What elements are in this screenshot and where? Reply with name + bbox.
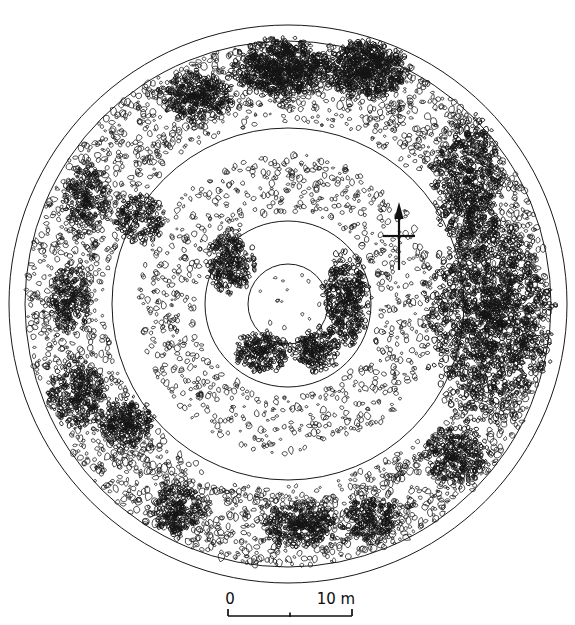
site-plan-figure: 0 10 m (0, 0, 575, 625)
stone-cluster-southwest-patch (96, 393, 156, 451)
scale-bar-group: 0 10 m (225, 590, 355, 617)
north-arrow-head-icon (394, 202, 403, 219)
stone-cluster-inner-south (234, 329, 296, 373)
stone-cluster-north-east (320, 38, 414, 102)
ring-central-circle (248, 264, 328, 344)
stone-cluster-inner-east (320, 249, 373, 348)
stone-zone-central-sparse (259, 274, 321, 330)
stone-cluster-west-lower (46, 356, 106, 430)
site-plan-drawing: 0 10 m (0, 0, 575, 625)
stone-cluster-inner-west (206, 227, 257, 296)
north-arrow-group (383, 202, 415, 270)
stone-zone-mid-band (137, 152, 439, 456)
scale-bar-left-label: 0 (225, 590, 235, 608)
feature-round-cairn-west (114, 192, 166, 246)
stone-cluster-northwest-arc (154, 68, 236, 124)
scale-bar-right-label: 10 m (317, 590, 355, 608)
stone-cluster-west-mid (47, 261, 94, 337)
stone-cluster-east-massive (421, 201, 557, 431)
stone-cluster-inner-southeast (291, 324, 341, 374)
